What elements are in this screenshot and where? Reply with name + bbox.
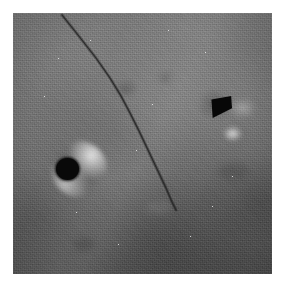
bright-diagonal-band (13, 13, 272, 274)
diagonal-crack-line (13, 13, 272, 274)
bright-speck (152, 104, 153, 105)
scanline-striations-layer (13, 13, 272, 274)
micrograph-figure (0, 0, 285, 288)
dark-circular-particle (56, 158, 79, 180)
contrast-blotches-layer (13, 13, 272, 274)
bright-speck (136, 150, 137, 151)
vignette-layer (13, 13, 272, 274)
surface-smudge (159, 73, 171, 82)
grain-noise-layer (13, 13, 272, 274)
surface-smudge (146, 201, 172, 215)
illumination-base-layer (13, 13, 272, 274)
bright-speck (76, 212, 77, 213)
surface-smudge (218, 163, 248, 179)
bright-speck (232, 176, 233, 177)
bright-speck (44, 96, 45, 97)
bright-speck (58, 58, 59, 59)
surface-smudge (118, 83, 134, 94)
bright-speck (190, 236, 191, 237)
bright-speck (118, 244, 119, 245)
surface-smudge (73, 238, 95, 250)
bright-speck (205, 52, 206, 53)
bright-speck (212, 206, 213, 207)
micrograph-image (13, 13, 272, 274)
bright-speck (168, 30, 169, 31)
bright-speck (90, 40, 91, 41)
dark-triangular-pit-halo (199, 85, 255, 143)
